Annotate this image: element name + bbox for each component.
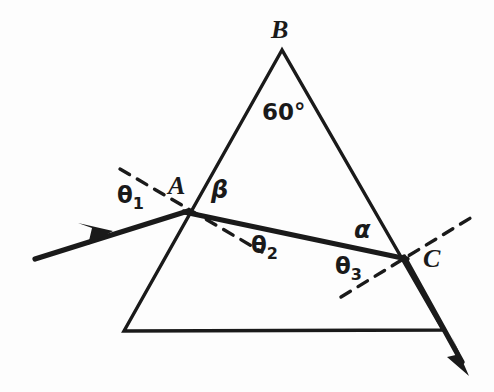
prism-diagram-canvas [0,0,494,392]
theta-2-subscript: 2 [267,244,278,263]
label-alpha: α [354,218,371,242]
theta-3-subscript: 3 [351,265,362,284]
internal-refracted-ray [184,212,407,259]
theta-1-symbol: θ [117,182,133,208]
label-vertex-c: C [423,246,440,272]
label-vertex-b: B [271,17,288,43]
label-vertex-a: A [168,173,185,199]
incident-ray [35,211,188,259]
label-beta: β [211,178,228,202]
label-theta-2: θ2 [251,234,278,262]
label-theta-1: θ1 [117,184,144,212]
theta-3-symbol: θ [335,253,351,279]
theta-2-symbol: θ [251,232,267,258]
theta-1-subscript: 1 [133,194,144,213]
prism-refraction-figure: B 60° A C θ1 θ2 θ3 β α [0,0,494,392]
label-apex-angle-60: 60° [262,101,306,124]
label-theta-3: θ3 [335,255,362,283]
